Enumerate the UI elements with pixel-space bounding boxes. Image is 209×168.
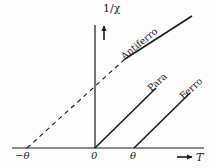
plot-area (0, 0, 209, 168)
x-tick-label-positive-theta: θ (130, 151, 136, 161)
y-axis-label: 1/χ (103, 3, 120, 14)
x-tick-label-origin: 0 (91, 151, 97, 161)
susceptibility-diagram: 1/χ T −θ 0 θ Antiferro Para Ferro (0, 0, 209, 168)
x-axis-label: T (196, 152, 203, 163)
x-tick-label-negative-theta: −θ (15, 151, 29, 161)
curve-antiferro-dashed-segment (27, 59, 125, 148)
curve-para (95, 88, 156, 148)
